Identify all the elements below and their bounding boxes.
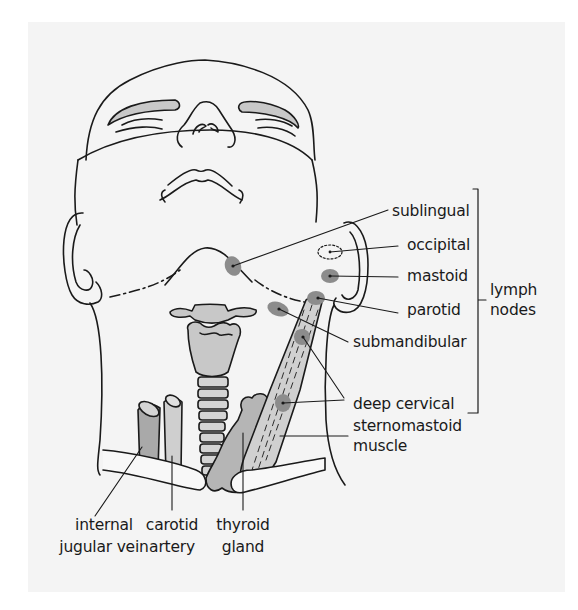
label-mastoid: mastoid xyxy=(407,268,468,285)
label-muscle: muscle xyxy=(353,438,407,455)
right-cheek xyxy=(312,160,317,222)
left-eye-lower xyxy=(116,127,162,132)
hyoid-bone xyxy=(170,304,256,323)
label-submandibular: submandibular xyxy=(353,334,467,351)
label-parotid: parotid xyxy=(407,302,461,319)
jaw-band xyxy=(78,130,312,160)
chin-right xyxy=(239,190,243,203)
larynx xyxy=(188,322,241,376)
label-thyroid: thyroid xyxy=(210,517,276,534)
label-lymph: lymph xyxy=(490,282,537,299)
right-ear-inner xyxy=(342,232,360,299)
label-deep-cervical: deep cervical xyxy=(353,396,454,413)
parotid-node xyxy=(307,291,325,305)
right-eye-lower xyxy=(258,127,295,136)
upper-lip xyxy=(168,170,232,186)
label-carotid: carotid xyxy=(140,517,204,534)
left-eye-upper xyxy=(122,119,162,125)
label-sublingual: sublingual xyxy=(392,203,470,220)
leader-deep-cervical-a xyxy=(303,337,344,398)
left-ear-inner xyxy=(73,225,93,290)
nose xyxy=(177,102,235,147)
jaw-line-right xyxy=(255,280,310,303)
left-ear xyxy=(63,213,101,304)
chin-left xyxy=(162,190,165,202)
lymph-nodes-bracket xyxy=(468,189,486,413)
left-eyebrow xyxy=(108,100,180,125)
leader-parotid xyxy=(318,298,398,313)
label-gland: gland xyxy=(210,539,276,556)
left-nostril xyxy=(193,124,206,134)
label-occipital: occipital xyxy=(407,237,470,254)
jaw-line xyxy=(110,270,180,297)
label-nodes: nodes xyxy=(490,302,536,319)
sternomastoid-muscle xyxy=(241,297,323,488)
label-artery: artery xyxy=(140,539,204,556)
label-sternomastoid: sternomastoid xyxy=(353,418,462,435)
left-neck xyxy=(90,303,102,475)
leader-mastoid xyxy=(330,276,398,277)
